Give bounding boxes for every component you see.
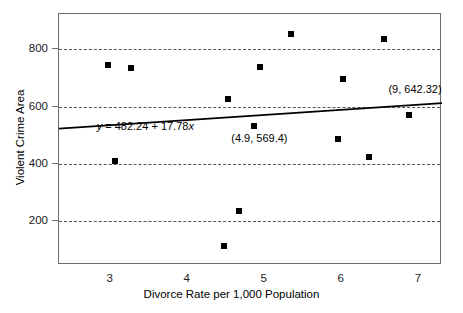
x-tick-label-4: 4 (175, 272, 199, 284)
data-point (236, 208, 242, 214)
data-point (288, 31, 294, 37)
chart-figure: Violent Crime Area 200400600800 34567 (9… (0, 0, 463, 313)
data-point (225, 96, 231, 102)
plot-area: (9, 642.32)(4.9, 569.4)y = 482.24 + 17.7… (58, 13, 441, 264)
data-point (112, 158, 118, 164)
y-tick-label-400: 400 (18, 157, 48, 169)
regression-equation-label: y = 482.24 + 17.78x (97, 120, 194, 132)
y-tick-label-600: 600 (18, 100, 48, 112)
x-axis-title: Divorce Rate per 1,000 Population (0, 288, 463, 301)
x-tick-label-7: 7 (406, 272, 430, 284)
predicted-point-label: (9, 642.32) (388, 83, 441, 95)
observed-point-label: (4.9, 569.4) (231, 132, 287, 144)
data-point (251, 123, 257, 129)
data-point (105, 62, 111, 68)
equation-x-variable: x (188, 120, 194, 132)
x-tick-label-6: 6 (329, 272, 353, 284)
data-point (335, 136, 341, 142)
y-tick-label-200: 200 (18, 214, 48, 226)
data-point (128, 65, 134, 71)
data-point (406, 112, 412, 118)
x-tick-label-3: 3 (98, 272, 122, 284)
x-tick-label-5: 5 (252, 272, 276, 284)
data-point (257, 64, 263, 70)
y-tick-label-800: 800 (18, 42, 48, 54)
data-point (381, 36, 387, 42)
data-point (366, 154, 372, 160)
data-point (221, 243, 227, 249)
equation-body: = 482.24 + 17.78 (102, 120, 188, 132)
y-axis-title: Violent Crime Area (14, 58, 27, 218)
data-point (340, 76, 346, 82)
